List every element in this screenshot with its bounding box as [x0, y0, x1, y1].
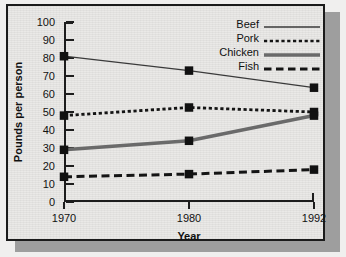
y-tick-label: 60	[43, 89, 55, 100]
x-tick	[188, 202, 190, 209]
y-tick-label: 40	[43, 125, 55, 136]
data-point-pork-1980	[185, 103, 194, 112]
data-point-beef-1970	[60, 52, 69, 61]
y-tick-label: 30	[43, 143, 55, 154]
y-tick-label: 100	[37, 17, 55, 28]
y-tick-label: 90	[43, 35, 55, 46]
data-point-pork-1970	[60, 111, 69, 120]
plot-area: 0102030405060708090100 197019801992 Year…	[64, 22, 314, 202]
x-tick-label: 1980	[177, 213, 201, 224]
data-point-beef-1980	[185, 66, 194, 75]
data-point-chicken-1970	[60, 146, 69, 155]
data-point-fish-1970	[60, 173, 69, 182]
y-tick-label: 70	[43, 71, 55, 82]
x-tick-label: 1992	[302, 213, 326, 224]
chart-screenshot: Beef Pork Chicken Fish	[0, 0, 346, 257]
data-point-chicken-1980	[185, 137, 194, 146]
y-tick-label: 20	[43, 161, 55, 172]
x-tick	[63, 202, 65, 209]
y-tick-label: 0	[49, 197, 55, 208]
y-axis-title: Pounds per person	[12, 62, 24, 162]
figure-frame: Beef Pork Chicken Fish	[6, 4, 325, 241]
y-tick-label: 10	[43, 179, 55, 190]
x-tick	[313, 202, 315, 209]
series-lines	[64, 22, 314, 202]
y-tick-label: 80	[43, 53, 55, 64]
x-axis-title: Year	[64, 230, 314, 242]
x-tick-label: 1970	[52, 213, 76, 224]
y-tick-label: 50	[43, 107, 55, 118]
data-point-beef-1992	[310, 83, 319, 92]
data-point-chicken-1992	[310, 111, 319, 120]
data-point-fish-1980	[185, 170, 194, 179]
data-point-fish-1992	[310, 165, 319, 174]
